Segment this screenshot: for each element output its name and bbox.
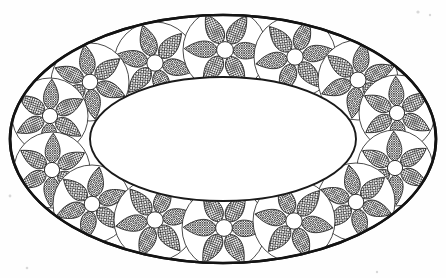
rosette-center-circle xyxy=(216,220,233,237)
inner-hole xyxy=(90,77,356,201)
rosette-center-circle xyxy=(42,108,57,123)
rosette-center-circle xyxy=(147,55,163,71)
line-art-canvas xyxy=(0,0,446,278)
rosette-center-circle xyxy=(389,105,404,120)
rosette-center-circle xyxy=(147,212,163,228)
rosette-center-circle xyxy=(287,49,303,65)
rosette-center-circle xyxy=(84,196,100,212)
paper-speck xyxy=(416,10,419,13)
rosette-center-circle xyxy=(44,162,59,177)
rosette-center-circle xyxy=(348,194,364,210)
rosette-center-circle xyxy=(82,74,98,90)
paper-speck xyxy=(376,271,378,273)
rosette-center-circle xyxy=(286,213,302,229)
paper-speck xyxy=(9,195,12,198)
rosette-center-circle xyxy=(217,42,234,59)
rosette-center-circle xyxy=(350,72,366,88)
paper-speck xyxy=(429,14,431,16)
artboard xyxy=(0,0,446,278)
rosette-center-circle xyxy=(387,160,402,175)
paper-speck xyxy=(26,267,29,270)
